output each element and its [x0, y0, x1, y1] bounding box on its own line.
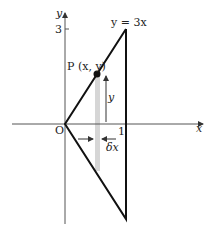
- elemental-strip: [95, 75, 100, 171]
- point-label: P (x, y): [67, 60, 106, 73]
- x-tick-label: 1: [118, 125, 125, 138]
- curve-label: y = 3x: [110, 16, 147, 29]
- y-tick-label: 3: [55, 23, 62, 36]
- width-label: δx: [106, 141, 120, 154]
- y-axis-label: y: [55, 7, 63, 20]
- origin-label: O: [55, 124, 64, 137]
- diagram-canvas: y x O 3 1 y = 3x P (x, y) y δx: [0, 0, 210, 234]
- x-axis-label: x: [196, 122, 203, 135]
- height-label: y: [107, 91, 115, 104]
